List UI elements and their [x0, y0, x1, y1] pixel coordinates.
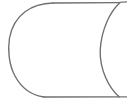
figure-canvas: Cylinder outline Line drawing of a cylin… — [0, 0, 127, 104]
cylinder-outline-figure — [0, 0, 127, 104]
figure-background — [0, 0, 127, 104]
top-right-stub — [120, 2, 128, 3]
